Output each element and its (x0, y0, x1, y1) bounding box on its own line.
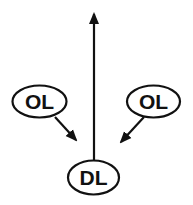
ol-right-label: OL (139, 90, 168, 113)
ol-left-node: OL (13, 86, 67, 118)
ol-left-block-arrow (55, 117, 76, 140)
play-diagram: OL OL DL (0, 0, 193, 205)
ol-left-label: OL (25, 90, 54, 113)
dl-label: DL (80, 166, 108, 189)
dl-node: DL (68, 161, 119, 195)
ol-right-block-arrow (121, 117, 144, 142)
diagram-canvas: OL OL DL (0, 0, 193, 205)
ol-right-node: OL (127, 86, 180, 118)
